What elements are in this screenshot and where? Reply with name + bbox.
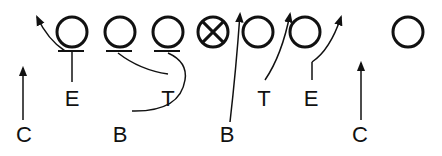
play-diagram: E T T E B B C C (0, 0, 442, 156)
player-circle-5 (243, 17, 273, 47)
player-circle-7 (393, 17, 423, 47)
middle-back-route (230, 14, 240, 122)
player-circle-1 (57, 17, 87, 47)
label-right-back: B (220, 122, 235, 147)
position-labels: E T T E B B C C (16, 86, 368, 147)
player-circle-6 (290, 17, 320, 47)
label-left-corner: C (16, 122, 32, 147)
center-ball-icon (198, 17, 228, 47)
player-circle-3 (153, 17, 183, 47)
label-left-tackle: T (161, 86, 174, 111)
left-tackle-route (118, 53, 168, 74)
label-right-tackle: T (257, 86, 270, 111)
player-circle-2 (105, 17, 135, 47)
label-left-end: E (65, 86, 80, 111)
label-right-end: E (304, 86, 319, 111)
label-left-back: B (113, 122, 128, 147)
label-right-corner: C (352, 122, 368, 147)
right-tackle-route (265, 14, 290, 80)
left-back-route (132, 53, 185, 111)
